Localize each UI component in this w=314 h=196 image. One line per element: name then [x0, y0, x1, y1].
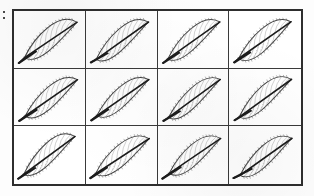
- specimen-cell: 9: [14, 126, 86, 184]
- margin-text-fragment: [2, 11, 8, 25]
- specimen-cell: 8: [229, 69, 301, 127]
- specimen-grid: 123456789101112: [12, 9, 303, 186]
- specimen-cell: 3: [158, 11, 230, 69]
- leaf-plate: 123456789101112: [0, 0, 314, 196]
- specimen-cell: 10: [86, 126, 158, 184]
- specimen-cell: 12: [229, 126, 301, 184]
- specimen-cell: 1: [14, 11, 86, 69]
- margin-dot-upper: [3, 11, 5, 13]
- specimen-cell: 7: [158, 69, 230, 127]
- specimen-cell: 11: [158, 126, 230, 184]
- specimen-cell: 6: [86, 69, 158, 127]
- margin-dot-lower: [3, 17, 5, 19]
- specimen-cell: 2: [86, 11, 158, 69]
- specimen-cell: 5: [14, 69, 86, 127]
- specimen-cell: 4: [229, 11, 301, 69]
